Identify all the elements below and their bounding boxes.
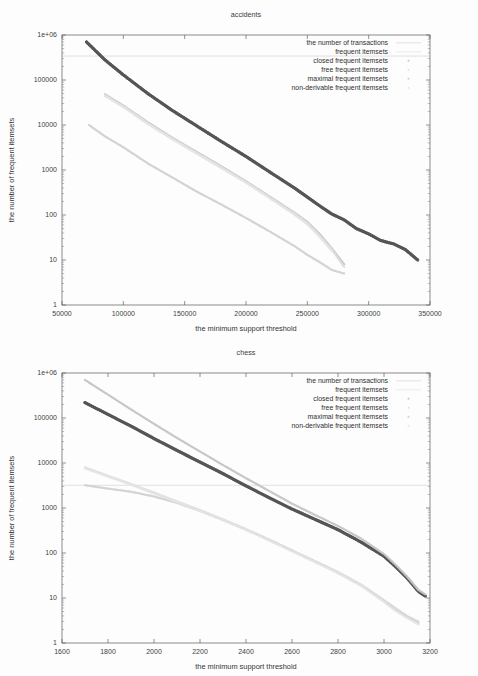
y-axis-title: the number of frequent itemsets (7, 118, 16, 223)
x-tick-label: 200000 (234, 310, 257, 317)
chart-chess-svg: chess1101001000100001000001e+06160018002… (0, 338, 478, 676)
x-tick-label: 1600 (54, 648, 70, 655)
x-tick-label: 50000 (52, 310, 72, 317)
y-tick-label: 10000 (38, 121, 58, 128)
y-tick-label: 1000 (41, 166, 57, 173)
legend-label-1: frequent itemsets (335, 386, 388, 394)
legend-label-3: free frequent itemsets (321, 66, 388, 74)
series-line-4 (85, 485, 419, 623)
x-tick-label: 250000 (296, 310, 319, 317)
series-points-3 (104, 94, 345, 267)
series-line-1 (85, 403, 425, 597)
chart-title: accidents (231, 10, 262, 19)
x-tick-label: 2200 (192, 648, 208, 655)
legend: the number of transactionsfrequent items… (291, 377, 421, 430)
x-tick-label: 2000 (146, 648, 162, 655)
chart-title: chess (237, 348, 256, 357)
x-tick-label: 150000 (173, 310, 196, 317)
chart-chess-content: chess1101001000100001000001e+06160018002… (7, 348, 438, 671)
y-tick-label: 10 (49, 594, 57, 601)
chart-chess: chess1101001000100001000001e+06160018002… (0, 338, 478, 676)
x-tick-label: 350000 (418, 310, 441, 317)
figure-page: accidents1101001000100001000001e+0650000… (0, 0, 478, 676)
series-points-1 (83, 401, 426, 597)
x-tick-label: 100000 (112, 310, 135, 317)
y-tick-label: 1e+06 (37, 31, 57, 38)
y-tick-label: 100 (45, 549, 57, 556)
x-tick-label: 3200 (422, 648, 438, 655)
series-line-3 (105, 95, 344, 267)
y-tick-label: 100000 (34, 414, 57, 421)
y-tick-label: 100000 (34, 76, 57, 83)
y-tick-label: 1000 (41, 504, 57, 511)
x-tick-label: 300000 (357, 310, 380, 317)
legend-label-5: non-derivable frequent itemsets (291, 84, 388, 92)
series-line-5 (105, 96, 332, 251)
y-tick-label: 10000 (38, 459, 58, 466)
series-points-4 (84, 484, 420, 624)
y-axis-title: the number of frequent itemsets (7, 456, 16, 561)
y-tick-label: 100 (45, 211, 57, 218)
legend-label-4: maximal frequent itemsets (308, 75, 389, 83)
x-axis-title: the minimum support threshold (195, 324, 296, 333)
y-tick-label: 10 (49, 256, 57, 263)
y-tick-label: 1 (53, 639, 57, 646)
series-points-4 (88, 124, 345, 275)
y-tick-label: 1e+06 (37, 369, 57, 376)
chart-accidents-content: accidents1101001000100001000001e+0650000… (7, 10, 442, 333)
legend-label-3: free frequent itemsets (321, 404, 388, 412)
x-tick-label: 2800 (330, 648, 346, 655)
x-axis-title: the minimum support threshold (195, 662, 296, 671)
legend-label-0: the number of transactions (306, 377, 388, 384)
legend: the number of transactionsfrequent items… (291, 39, 421, 92)
x-tick-label: 2400 (238, 648, 254, 655)
x-tick-label: 3000 (376, 648, 392, 655)
chart-accidents-svg: accidents1101001000100001000001e+0650000… (0, 0, 478, 338)
series-points-1 (85, 40, 418, 260)
legend-label-0: the number of transactions (306, 39, 388, 46)
x-tick-label: 2600 (284, 648, 300, 655)
legend-label-1: frequent itemsets (335, 48, 388, 56)
series-line-4 (89, 125, 344, 274)
y-tick-label: 1 (53, 301, 57, 308)
x-tick-label: 1800 (100, 648, 116, 655)
legend-label-5: non-derivable frequent itemsets (291, 422, 388, 430)
legend-label-4: maximal frequent itemsets (308, 413, 389, 421)
chart-accidents: accidents1101001000100001000001e+0650000… (0, 0, 478, 338)
legend-label-2: closed frequent itemsets (313, 395, 388, 403)
legend-label-2: closed frequent itemsets (313, 57, 388, 65)
